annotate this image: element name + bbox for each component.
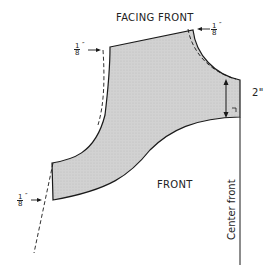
measure-label: 2" <box>252 87 264 98</box>
facing-front-title: FACING FRONT <box>116 12 194 23</box>
center-front-label: Center front <box>226 179 237 240</box>
front-label: FRONT <box>157 179 193 190</box>
allowance-bottom-left: 18 <box>17 194 23 207</box>
allowance-top-right: 18 <box>211 23 217 36</box>
allowance-top-left: 18 <box>74 43 80 56</box>
bottom-left-dashed-seam <box>34 163 53 253</box>
left-dashed-seam <box>98 50 104 125</box>
pattern-diagram <box>0 0 279 280</box>
